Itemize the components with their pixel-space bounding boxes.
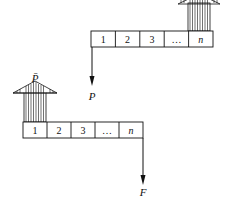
upper-cell-1: 1: [101, 34, 106, 45]
upper-cell-strip: 1 2 3 … n: [91, 31, 213, 47]
lower-cell-ellipsis: …: [102, 125, 112, 136]
lower-cell-1: 1: [33, 125, 38, 136]
upper-cell-ellipsis: …: [171, 34, 181, 45]
lower-cell-n: n: [129, 125, 134, 136]
f-force-arrow-icon: [141, 138, 146, 185]
p-force-label: P: [88, 90, 96, 102]
f-force-label: F: [139, 186, 147, 198]
lower-distributed-load-arrow-icon: [13, 81, 57, 122]
upper-cell-n: n: [198, 34, 203, 45]
upper-cell-2: 2: [125, 34, 130, 45]
lower-cell-2: 2: [57, 125, 62, 136]
lower-cell-strip: 1 2 3 … n: [23, 122, 143, 138]
p-force-arrow-icon: [90, 47, 95, 86]
upper-distributed-load-arrow-icon: [178, 0, 220, 31]
lower-cell-3: 3: [81, 125, 86, 136]
upper-cell-3: 3: [150, 34, 155, 45]
diagram-canvas: 1 2 3 … n P P̄: [0, 0, 229, 199]
